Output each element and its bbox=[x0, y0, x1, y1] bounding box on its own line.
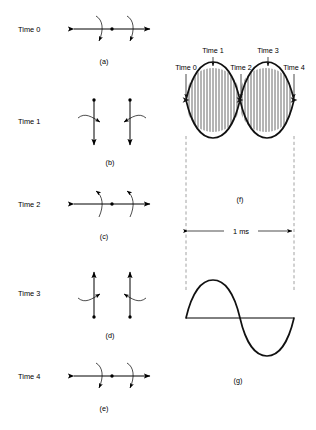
panel-e-time-4: Time 4 (e) bbox=[18, 363, 150, 413]
panel-b-curved-arrow-right bbox=[124, 115, 146, 122]
panel-b-time-1: Time 1 (b) bbox=[18, 98, 146, 167]
panel-d-curved-arrow-right bbox=[124, 294, 146, 301]
standing-wave-figure: Time 0 (a) Time 1 (b) Time 2 (c bbox=[0, 0, 316, 430]
dimension-label: 1 ms bbox=[233, 227, 249, 236]
panel-b-curved-arrow-left bbox=[78, 115, 100, 122]
pointer-label-time-0: Time 0 bbox=[175, 63, 197, 72]
panel-g-label: (g) bbox=[234, 376, 243, 385]
panel-b-time-label: Time 1 bbox=[18, 117, 40, 126]
panel-a-center-dot bbox=[110, 27, 113, 30]
panel-c-time-label: Time 2 bbox=[18, 200, 40, 209]
panel-e-label: (e) bbox=[100, 404, 109, 413]
pointer-label-time-3: Time 3 bbox=[257, 46, 279, 55]
panel-c-label: (c) bbox=[100, 232, 108, 241]
panel-b-label: (b) bbox=[106, 158, 115, 167]
panel-f-label: (f) bbox=[237, 195, 244, 204]
figure-root: Time 0 (a) Time 1 (b) Time 2 (c bbox=[0, 0, 316, 430]
panel-e-center-dot bbox=[110, 374, 113, 377]
panel-g-waveform: (g) bbox=[186, 280, 294, 385]
panel-a-label: (a) bbox=[100, 57, 109, 66]
panel-d-label: (d) bbox=[106, 331, 115, 340]
panel-f-envelope: Time 0 Time 1 Time 2 Time 3 Time 4 bbox=[175, 46, 305, 204]
pointer-label-time-2: Time 2 bbox=[230, 63, 252, 72]
dimension-1ms: 1 ms bbox=[188, 227, 292, 236]
panel-d-time-label: Time 3 bbox=[18, 289, 40, 298]
panel-e-time-label: Time 4 bbox=[18, 372, 40, 381]
panel-a-time-0: Time 0 (a) bbox=[18, 16, 150, 66]
panel-a-time-label: Time 0 bbox=[18, 25, 40, 34]
pointer-label-time-4: Time 4 bbox=[283, 63, 305, 72]
panel-c-time-2: Time 2 (c) bbox=[18, 191, 150, 241]
pointer-label-time-1: Time 1 bbox=[202, 46, 224, 55]
panel-d-curved-arrow-left bbox=[78, 294, 100, 301]
panel-d-time-3: Time 3 (d) bbox=[18, 272, 146, 340]
panel-c-center-dot bbox=[110, 202, 113, 205]
